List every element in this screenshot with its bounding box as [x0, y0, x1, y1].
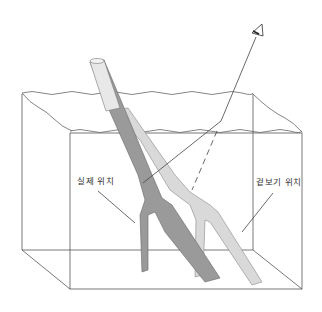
water-tank — [22, 94, 302, 289]
apparent-position-label: 겉보기 위치 — [256, 175, 302, 187]
eye-icon — [252, 24, 263, 36]
refraction-diagram — [0, 0, 322, 312]
dashed-extension — [192, 131, 217, 190]
actual-position-label: 실제 위치 — [77, 174, 114, 186]
water-surface — [22, 92, 302, 133]
